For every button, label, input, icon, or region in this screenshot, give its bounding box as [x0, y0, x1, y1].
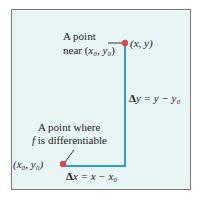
base-label-line2: f is differentiable [32, 134, 107, 146]
delta-y-label: Δy = y − y₀ [129, 92, 180, 104]
near-label-prefix: near ( [63, 44, 88, 56]
base-label-rest: is differentiable [35, 134, 107, 146]
delta-x-expr: x = x − x₀ [73, 170, 117, 182]
delta-y-symbol: Δ [129, 92, 136, 104]
near-label-math: x₀, y₀ [88, 44, 111, 56]
near-label-line2: near (x₀, y₀) [63, 44, 115, 56]
point-base-marker [60, 161, 66, 167]
point-near-coord: (x, y) [130, 37, 153, 49]
near-label-suffix: ) [111, 44, 115, 56]
point-base-coord: (x₀, y₀) [13, 158, 43, 170]
base-leader-line [65, 150, 74, 162]
point-near-marker [122, 40, 128, 46]
delta-x-label: Δx = x − x₀ [66, 170, 117, 182]
base-label-line1: A point where [38, 121, 100, 133]
delta-x-symbol: Δ [66, 170, 73, 182]
near-label-line1: A point [63, 30, 96, 42]
delta-y-expr: y = y − y₀ [136, 92, 180, 104]
